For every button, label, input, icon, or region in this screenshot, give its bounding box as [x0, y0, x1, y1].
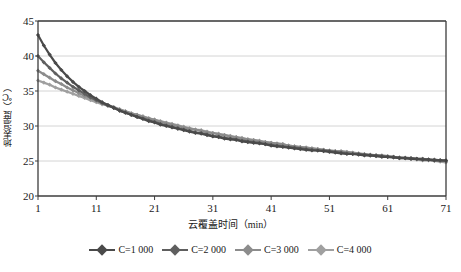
series-line	[38, 56, 446, 161]
series-line	[38, 81, 446, 163]
x-tick-label: 41	[258, 203, 284, 214]
data-series-group	[36, 33, 448, 165]
x-tick-label: 71	[433, 203, 459, 214]
legend-marker-icon	[89, 245, 115, 254]
series-line	[38, 71, 446, 161]
x-axis-title: 云覆盖时间（min）	[0, 219, 461, 231]
legend-marker-icon	[308, 245, 334, 254]
legend-marker-icon	[162, 245, 188, 254]
legend-label: C=1 000	[117, 244, 153, 255]
legend-label: C=2 000	[190, 244, 226, 255]
legend-marker-icon	[235, 245, 261, 254]
legend-item-c2000: C=2 000	[162, 244, 226, 255]
x-tick-label: 51	[316, 203, 342, 214]
x-tick-label: 11	[83, 203, 109, 214]
x-tick-label: 31	[200, 203, 226, 214]
chart-figure: 地表温度（℃） 45 40 35 30 25 20 1 11 21 31 41 …	[0, 0, 461, 272]
x-tick-label: 61	[375, 203, 401, 214]
plot-area	[0, 0, 461, 272]
legend-item-c4000: C=4 000	[308, 244, 372, 255]
legend-item-c3000: C=3 000	[235, 244, 299, 255]
legend-item-c1000: C=1 000	[89, 244, 153, 255]
x-tick-label: 21	[142, 203, 168, 214]
chart-legend: C=1 000 C=2 000 C=3 000 C=4 000	[0, 244, 461, 255]
legend-label: C=4 000	[336, 244, 372, 255]
x-tick-label: 1	[25, 203, 51, 214]
plot-frame	[35, 21, 446, 196]
legend-label: C=3 000	[263, 244, 299, 255]
